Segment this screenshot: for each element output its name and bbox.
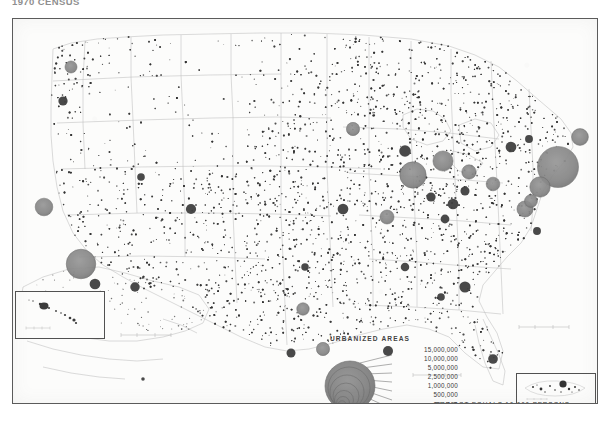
urbanized-area-circle bbox=[301, 263, 309, 271]
legend-body: 15,000,000 10,000,000 5,000,000 2,500,00… bbox=[324, 345, 504, 404]
urbanized-area-circle bbox=[90, 279, 101, 290]
urbanized-area-circle bbox=[346, 122, 359, 135]
urbanized-area-circle bbox=[400, 162, 426, 188]
dot-value-note: ONE DOT EQUALS 10,000 PERSONS OUTSIDE UR… bbox=[427, 400, 577, 404]
legend-label: 500,000 bbox=[394, 390, 458, 399]
urbanized-area-circle bbox=[460, 186, 469, 195]
urbanized-area-circle bbox=[426, 192, 435, 201]
legend: URBANIZED AREAS bbox=[324, 335, 504, 404]
urbanized-area-circle bbox=[130, 282, 139, 291]
legend-label: 10,000,000 bbox=[394, 354, 458, 363]
legend-label: 1,000,000 bbox=[394, 381, 458, 390]
urbanized-area-circle bbox=[35, 198, 53, 216]
legend-label: 5,000,000 bbox=[394, 363, 458, 372]
urbanized-area-circle bbox=[441, 215, 450, 224]
hawaii-inset bbox=[15, 291, 105, 339]
urbanized-area-circle bbox=[65, 61, 77, 73]
urbanized-area-circle bbox=[297, 303, 310, 316]
united-states-population-dot-map bbox=[13, 19, 597, 403]
urbanized-area-circle bbox=[399, 145, 411, 157]
urbanized-area-circle bbox=[525, 195, 538, 208]
urbanized-area-circle bbox=[338, 204, 349, 215]
legend-labels: 15,000,000 10,000,000 5,000,000 2,500,00… bbox=[394, 345, 458, 404]
urbanized-area-circle bbox=[437, 293, 445, 301]
urbanized-area-circle bbox=[506, 142, 517, 153]
urbanized-area-circle bbox=[141, 377, 145, 381]
urbanized-area-circles bbox=[35, 61, 588, 395]
urbanized-area-circle bbox=[66, 249, 96, 279]
urbanized-area-circle bbox=[186, 204, 196, 214]
dot-note-line-1: ONE DOT EQUALS 10,000 PERSONS bbox=[427, 400, 577, 404]
urbanized-area-circle bbox=[287, 349, 296, 358]
urbanized-area-circle bbox=[137, 173, 145, 181]
urbanized-area-circle bbox=[486, 177, 500, 191]
legend-label: 2,500,000 bbox=[394, 372, 458, 381]
urbanized-area-circle bbox=[58, 96, 67, 105]
legend-label: 15,000,000 bbox=[394, 345, 458, 354]
legend-title: URBANIZED AREAS bbox=[330, 335, 504, 342]
urbanized-area-circle bbox=[533, 227, 541, 235]
page-title: 1970 CENSUS bbox=[12, 0, 80, 7]
urbanized-area-circle bbox=[572, 129, 589, 146]
map-frame: URBANIZED AREAS bbox=[12, 18, 598, 404]
urbanized-area-circle bbox=[433, 151, 453, 171]
urbanized-area-circle bbox=[401, 263, 410, 272]
urbanized-area-circle bbox=[462, 165, 476, 179]
urbanized-area-circle bbox=[380, 210, 394, 224]
legend-proportional-circles bbox=[324, 353, 394, 404]
urbanized-area-circle bbox=[459, 281, 470, 292]
urbanized-area-circle bbox=[530, 177, 550, 197]
urbanized-area-circle bbox=[525, 135, 533, 143]
urbanized-area-circle bbox=[448, 199, 459, 210]
